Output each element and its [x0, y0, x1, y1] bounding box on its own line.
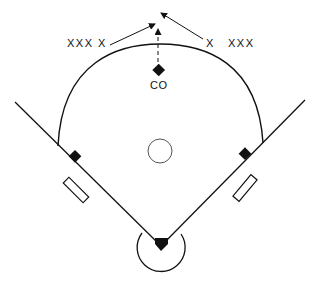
center-label: CO — [150, 79, 168, 91]
left-players-label: XXX X — [67, 37, 107, 49]
first-base-icon — [239, 147, 252, 160]
right-runner-label: X — [206, 37, 215, 49]
left-dugout-icon — [63, 177, 88, 202]
second-base-icon — [152, 64, 165, 77]
home-plate-icon — [155, 238, 168, 251]
right-foul-line — [161, 100, 305, 246]
right-throw-arrow — [161, 13, 203, 39]
right-players-label: XXX — [228, 37, 255, 49]
baseball-field-diagram — [0, 0, 316, 287]
third-base-icon — [69, 150, 82, 163]
pitchers-mound — [148, 139, 172, 163]
right-dugout-icon — [233, 175, 257, 202]
left-throw-arrow — [110, 24, 155, 45]
outfield-arc — [58, 44, 263, 146]
left-foul-line — [15, 102, 161, 246]
